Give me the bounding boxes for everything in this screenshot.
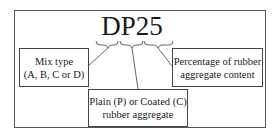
percentage-line-2: aggregate content: [180, 68, 254, 81]
mix-type-line-2: (A, B, C or D): [24, 68, 85, 81]
aggregate-type-box: Plain (P) or Coated (C) rubber aggregate: [88, 89, 188, 127]
mix-type-line-1: Mix type: [35, 55, 73, 68]
percentage-line-1: Percentage of rubber: [174, 55, 261, 68]
mix-type-box: Mix type (A, B, C or D): [19, 48, 89, 87]
connector-percentage: [158, 48, 172, 66]
brace-aggregate-type: [120, 41, 143, 48]
brace-mix-type: [96, 41, 118, 48]
connector-mix-type: [88, 48, 108, 66]
brace-percentage: [144, 41, 173, 48]
percentage-box: Percentage of rubber aggregate content: [172, 48, 263, 87]
aggregate-type-line-2: rubber aggregate: [103, 108, 174, 121]
connector-aggregate-type: [132, 48, 138, 89]
aggregate-type-line-1: Plain (P) or Coated (C): [89, 95, 186, 108]
